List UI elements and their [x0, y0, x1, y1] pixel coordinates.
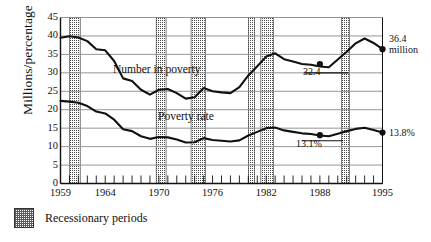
- plot-frame: [61, 18, 383, 184]
- recession-band-swatch-icon: [14, 208, 34, 228]
- recession-band-5: [341, 18, 349, 184]
- value-label-13-1-percent: 13.1%: [296, 138, 322, 149]
- x-axis-ticks-group: [61, 176, 383, 184]
- recession-bands-group: [69, 18, 349, 184]
- chart-legend: Recessionary periods: [14, 208, 147, 228]
- x-tick-label-1988: 1988: [300, 187, 340, 198]
- chart-plot-area: [0, 0, 431, 242]
- data-markers-group: [317, 46, 386, 138]
- value-label-32-4: 32.4: [303, 66, 321, 77]
- series-label-number-in-poverty: Number in poverty: [113, 63, 201, 75]
- legend-label-recessionary-periods: Recessionary periods: [45, 211, 147, 226]
- recession-band-3: [248, 18, 254, 184]
- marker-number-1995: [379, 46, 385, 52]
- x-tick-label-1976: 1976: [193, 187, 233, 198]
- x-tick-label-1959: 1959: [41, 187, 81, 198]
- series-line-poverty-rate: [61, 101, 383, 143]
- data-lines-group: [61, 36, 383, 142]
- value-label-million-unit: million: [389, 44, 418, 55]
- series-line-number-in-poverty: [61, 36, 383, 98]
- x-tick-label-1964: 1964: [85, 187, 125, 198]
- gridlines-group: [61, 18, 383, 166]
- series-label-poverty-rate: Poverty rate: [158, 110, 214, 122]
- recession-band-4: [261, 18, 274, 184]
- x-tick-label-1970: 1970: [139, 187, 179, 198]
- marker-rate-1995: [379, 129, 385, 135]
- x-tick-label-1982: 1982: [246, 187, 286, 198]
- recession-band-0: [69, 18, 80, 184]
- value-label-13-8-percent: 13.8%: [389, 127, 415, 138]
- recession-band-2: [191, 18, 205, 184]
- recession-band-1: [156, 18, 166, 184]
- value-label-36-4: 36.4: [389, 33, 407, 44]
- x-tick-label-1995: 1995: [363, 187, 403, 198]
- poverty-chart-figure: Millions/percentage 051015202530354045 1…: [0, 0, 431, 242]
